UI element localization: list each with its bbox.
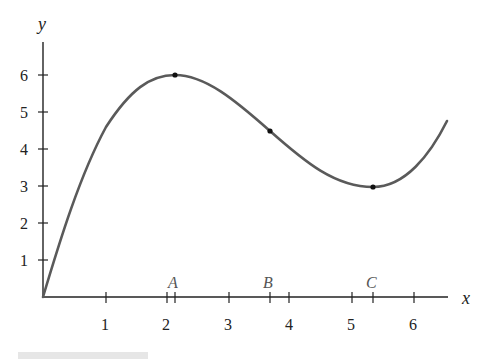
- point-b-marker: [267, 128, 272, 133]
- x-tick-label-3: 3: [224, 316, 232, 333]
- x-tick-label-4: 4: [285, 316, 293, 333]
- x-tick-label-5: 5: [347, 316, 355, 333]
- function-graph: 1 2 3 4 5 6 y 1 2 3 4 5 6 x A B C: [0, 0, 488, 359]
- point-label-b: B: [263, 274, 273, 291]
- cropped-caption-artifact: [18, 352, 148, 359]
- y-tick-label-5: 5: [20, 104, 28, 121]
- y-tick-label-4: 4: [20, 141, 28, 158]
- point-a-marker: [172, 72, 177, 77]
- y-tick-label-6: 6: [20, 67, 28, 84]
- y-tick-label-2: 2: [20, 215, 28, 232]
- x-tick-label-2: 2: [162, 316, 170, 333]
- y-axis-label: y: [36, 14, 46, 34]
- y-tick-label-3: 3: [20, 178, 28, 195]
- y-tick-label-1: 1: [20, 252, 28, 269]
- x-tick-label-6: 6: [409, 316, 417, 333]
- x-tick-label-1: 1: [101, 316, 109, 333]
- point-c-marker: [370, 184, 375, 189]
- point-label-a: A: [167, 274, 178, 291]
- point-label-c: C: [366, 274, 377, 291]
- x-axis-label: x: [461, 288, 470, 308]
- function-curve: [43, 75, 447, 297]
